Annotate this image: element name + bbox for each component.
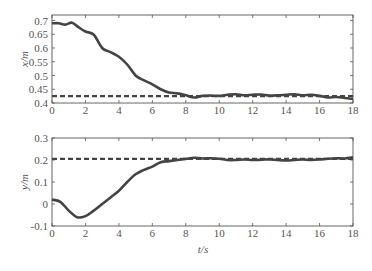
y-tick-label: 0.3	[34, 132, 48, 144]
x-tick-label: 18	[348, 104, 360, 116]
top-ylabel: x/m	[18, 51, 30, 68]
x-tick-label: 14	[281, 104, 293, 116]
x-tick-label: 16	[314, 104, 326, 116]
x-tick-label: 4	[116, 104, 122, 116]
y-tick-label: -0.1	[31, 220, 48, 232]
x-tick-label: 12	[247, 227, 258, 239]
bottom-ylabel: y/m	[18, 174, 30, 191]
x-tick-label: 6	[150, 227, 156, 239]
x-tick-label: 14	[281, 227, 293, 239]
x-tick-label: 2	[83, 104, 89, 116]
y-tick-label: 0	[43, 198, 49, 210]
y-tick-label: 0.65	[29, 28, 49, 40]
x-tick-label: 8	[183, 104, 189, 116]
x-tick-label: 0	[49, 104, 55, 116]
y-position-plot: 024681012141618-0.100.10.20.3	[31, 132, 359, 239]
x-tick-label: 12	[247, 104, 258, 116]
trajectory-line	[52, 157, 353, 217]
x-tick-label: 2	[83, 227, 89, 239]
y-tick-label: 0.55	[29, 56, 49, 68]
y-tick-label: 0.7	[34, 15, 48, 27]
y-tick-label: 0.2	[34, 154, 48, 166]
bottom-xlabel: t/s	[198, 243, 208, 255]
x-tick-label: 8	[183, 227, 189, 239]
x-tick-label: 10	[214, 227, 226, 239]
plot-frame	[52, 15, 353, 103]
y-tick-label: 0.6	[34, 42, 48, 54]
figure: 0246810121416180.40.450.50.550.60.650.7 …	[0, 0, 372, 271]
trajectory-line	[52, 23, 353, 99]
y-tick-label: 0.5	[34, 70, 48, 82]
y-tick-label: 0.4	[34, 97, 48, 109]
x-tick-label: 10	[214, 104, 226, 116]
y-tick-label: 0.45	[29, 83, 49, 95]
x-tick-label: 4	[116, 227, 122, 239]
x-tick-label: 6	[150, 104, 156, 116]
y-tick-label: 0.1	[34, 176, 48, 188]
x-tick-label: 0	[49, 227, 55, 239]
x-position-plot: 0246810121416180.40.450.50.550.60.650.7	[29, 15, 359, 117]
plot-frame	[52, 138, 353, 226]
x-tick-label: 16	[314, 227, 326, 239]
x-tick-label: 18	[348, 227, 360, 239]
